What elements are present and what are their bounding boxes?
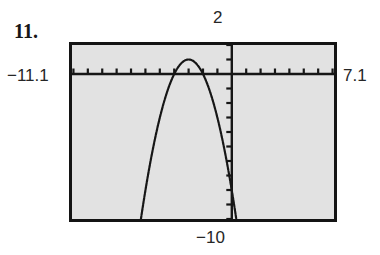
y-axis-tick-marks: [226, 45, 231, 219]
window-xmax-label: 7.1: [343, 66, 367, 86]
window-xmin-label: −11.1: [7, 66, 49, 86]
parabola-curve: [139, 60, 237, 219]
exercise-number: 11.: [14, 20, 38, 43]
window-ymin-label: −10: [196, 228, 225, 248]
calculator-screen: [69, 42, 337, 222]
graph-svg: [72, 45, 334, 219]
graph-plot-area: [72, 45, 334, 219]
window-ymax-label: 2: [213, 8, 222, 28]
